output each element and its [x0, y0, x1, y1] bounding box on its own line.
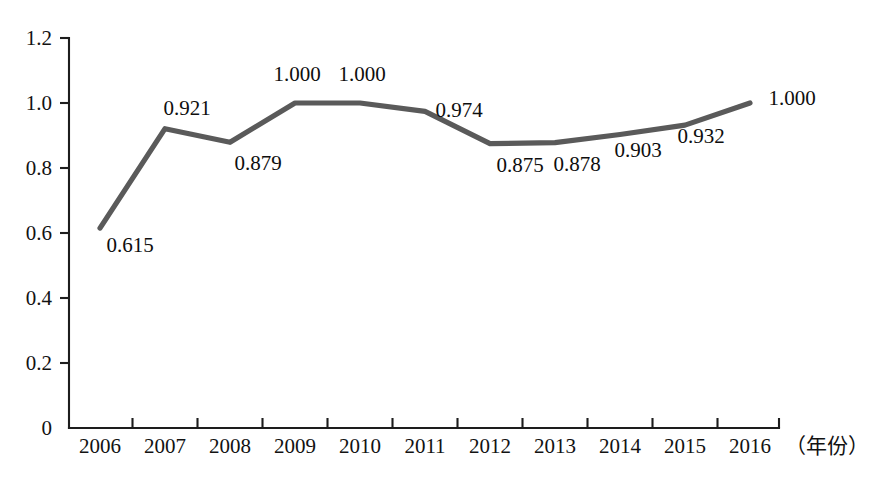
data-point-label: 1.000: [768, 86, 815, 110]
y-axis-tick-label: 0.8: [26, 156, 52, 180]
x-axis-tick-label: 2006: [79, 434, 121, 458]
data-point-label: 0.921: [163, 96, 210, 120]
chart-figure: 00.20.40.60.81.01.2 20062007200820092010…: [0, 0, 872, 498]
data-point-label: 0.974: [435, 98, 483, 122]
x-axis-tick-label: 2008: [209, 434, 251, 458]
data-point-label: 0.932: [677, 124, 724, 148]
data-point-label: 1.000: [273, 62, 320, 86]
data-point-label: 0.615: [106, 233, 153, 257]
x-axis-tick-label: 2009: [274, 434, 316, 458]
x-axis-tick-label: 2016: [729, 434, 771, 458]
y-axis-tick-label: 0: [42, 416, 53, 440]
data-point-label: 0.903: [614, 138, 661, 162]
x-axis-tick-label: 2011: [404, 434, 445, 458]
y-axis-tick-label: 0.6: [26, 221, 52, 245]
data-point-label: 0.878: [553, 152, 600, 176]
x-axis-tick-label: 2012: [469, 434, 511, 458]
x-axis-tick-label: 2010: [339, 434, 381, 458]
data-point-label: 0.875: [496, 153, 543, 177]
y-axis-tick-label: 0.4: [26, 286, 53, 310]
data-point-label: 0.879: [234, 151, 281, 175]
x-axis-tick-label: 2007: [144, 434, 186, 458]
x-axis-title: （年份）: [785, 434, 869, 458]
x-axis-tick-label: 2015: [664, 434, 706, 458]
y-axis-tick-label: 0.2: [26, 351, 52, 375]
x-axis-tick-label: 2013: [534, 434, 576, 458]
x-axis-title-text: （年份）: [785, 434, 869, 458]
data-point-label: 1.000: [338, 62, 385, 86]
x-axis-tick-label: 2014: [599, 434, 642, 458]
y-axis-tick-label: 1.0: [26, 91, 52, 115]
line-chart-canvas: 00.20.40.60.81.01.2 20062007200820092010…: [0, 0, 872, 498]
y-axis-tick-label: 1.2: [26, 26, 52, 50]
